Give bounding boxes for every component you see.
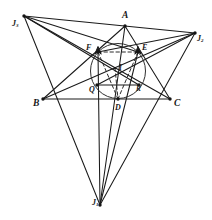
line-A-to-J1: [100, 26, 125, 205]
point-marker-B: [41, 97, 44, 100]
point-label-J3: J3: [12, 20, 18, 29]
point-label-D: D: [115, 104, 121, 112]
geometry-figure: A B C D E F I Q R J1 J2 J3: [0, 0, 212, 220]
point-label-J2: J2: [197, 35, 203, 44]
point-marker-A: [123, 24, 126, 27]
point-label-J1: J1: [92, 199, 98, 208]
point-marker-J3: [22, 14, 25, 17]
label-J3-subscript: 3: [16, 23, 18, 28]
point-marker-F: [96, 50, 99, 53]
point-label-A: A: [122, 11, 128, 21]
point-label-C: C: [174, 99, 180, 109]
side-AB: [43, 26, 125, 99]
line-E-to-J1: [100, 52, 138, 205]
point-label-I: I: [119, 64, 122, 71]
point-label-B: B: [33, 99, 39, 109]
point-marker-E: [136, 50, 139, 53]
point-marker-C: [168, 97, 171, 100]
point-marker-D: [116, 97, 119, 100]
point-marker-I: [114, 67, 116, 69]
point-marker-J1: [98, 203, 101, 206]
excentral-J1-J2: [100, 33, 195, 205]
point-label-Q: Q: [89, 86, 95, 94]
point-label-E: E: [142, 44, 147, 52]
side-AC: [125, 26, 170, 99]
label-J2-subscript: 2: [201, 38, 203, 43]
geometry-canvas: [0, 0, 212, 220]
label-J1-subscript: 1: [96, 202, 98, 207]
point-label-R: R: [136, 85, 141, 92]
point-marker-Q: [95, 83, 98, 86]
point-label-F: F: [86, 44, 91, 52]
